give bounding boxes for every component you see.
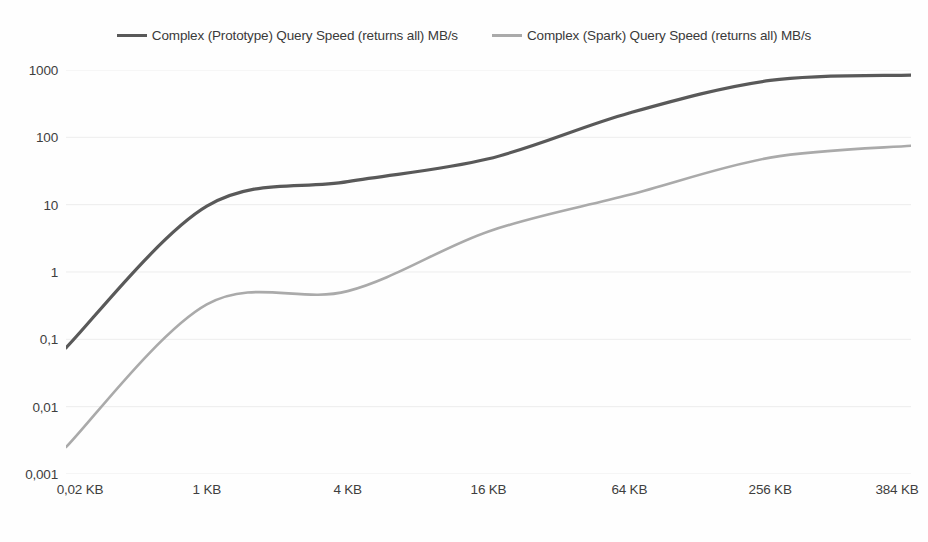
y-tick-label: 0,001 [0,467,58,482]
legend-swatch-spark [492,34,522,37]
legend-item-spark[interactable]: Complex (Spark) Query Speed (returns all… [492,28,811,43]
x-axis: 0,02 KB1 KB4 KB16 KB64 KB256 KB384 KB [66,482,911,506]
x-tick-label: 64 KB [611,482,647,497]
x-tick-label: 4 KB [333,482,361,497]
x-tick-label: 256 KB [749,482,792,497]
y-axis: 10001001010,10,010,001 [0,70,58,474]
y-tick-label: 100 [0,130,58,145]
legend-label-prototype: Complex (Prototype) Query Speed (returns… [152,28,458,43]
x-tick-label: 0,02 KB [57,482,104,497]
y-tick-label: 1 [0,265,58,280]
y-tick-label: 1000 [0,63,58,78]
line-chart: Complex (Prototype) Query Speed (returns… [0,0,928,542]
plot-canvas [66,70,911,474]
y-tick-label: 0,01 [0,399,58,414]
legend-label-spark: Complex (Spark) Query Speed (returns all… [527,28,811,43]
plot-area [66,70,911,474]
x-tick-label: 16 KB [471,482,507,497]
y-tick-label: 0,1 [0,332,58,347]
legend-swatch-prototype [117,34,147,37]
chart-legend: Complex (Prototype) Query Speed (returns… [0,22,928,48]
y-tick-label: 10 [0,197,58,212]
series-line[interactable] [66,146,911,447]
series-line[interactable] [66,75,911,348]
x-tick-label: 384 KB [875,482,918,497]
legend-item-prototype[interactable]: Complex (Prototype) Query Speed (returns… [117,28,458,43]
x-tick-label: 1 KB [193,482,221,497]
